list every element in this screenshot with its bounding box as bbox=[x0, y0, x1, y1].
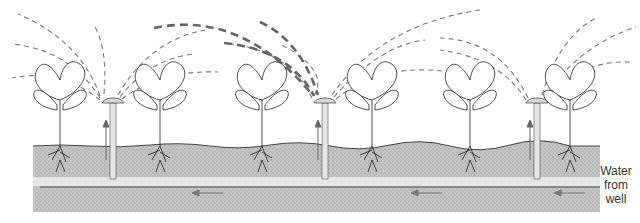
label-line-1: Water bbox=[593, 164, 639, 178]
diagram-canvas bbox=[0, 0, 640, 223]
water-source-label: Water from well bbox=[593, 164, 639, 206]
soil-layer bbox=[33, 141, 600, 212]
spray-arcs bbox=[12, 10, 636, 100]
irrigation-diagram: Water from well bbox=[0, 0, 640, 223]
label-line-2: from bbox=[593, 178, 639, 192]
label-line-3: well bbox=[593, 192, 639, 206]
